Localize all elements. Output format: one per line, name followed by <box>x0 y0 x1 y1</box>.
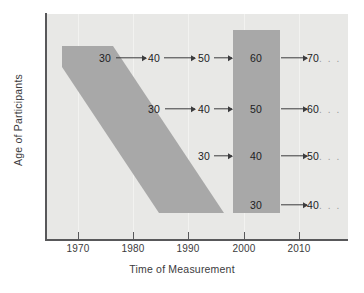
x-tick-label-1980: 1980 <box>121 243 144 254</box>
cell-r2c1: 30 <box>148 103 160 115</box>
cell-r3c3: 50. . . <box>307 150 341 162</box>
arrow-r2-3 <box>281 108 307 109</box>
cell-r1c5-ellipsis: . . . <box>319 53 341 64</box>
y-axis-line <box>45 13 47 240</box>
arrow-r1-1 <box>116 57 146 58</box>
arrow-r4-1 <box>281 204 307 205</box>
x-tick-1970 <box>78 232 79 241</box>
x-tick-1980 <box>133 232 134 241</box>
cell-r2c4: 60. . . <box>307 103 341 115</box>
cell-r3c3-value: 50 <box>307 150 319 162</box>
x-tick-2010 <box>299 232 300 241</box>
cell-r2c4-ellipsis: . . . <box>319 104 341 115</box>
y-axis-title: Age of Participants <box>12 40 24 200</box>
arrow-r1-3 <box>214 57 232 58</box>
x-tick-label-2000: 2000 <box>232 243 255 254</box>
arrow-r2-1 <box>165 108 195 109</box>
x-tick-2000 <box>244 232 245 241</box>
cell-r2c4-value: 60 <box>307 103 319 115</box>
cell-r2c3: 50 <box>250 103 262 115</box>
diagonal-cohort-band <box>62 46 224 213</box>
x-tick-1990 <box>188 232 189 241</box>
cell-r4c2-ellipsis: . . . <box>319 200 341 211</box>
cell-r3c2: 40 <box>250 150 262 162</box>
cell-r4c1: 30 <box>250 199 262 211</box>
cell-r2c2: 40 <box>198 103 210 115</box>
cell-r4c2-value: 40 <box>307 199 319 211</box>
arrow-r1-2 <box>164 57 195 58</box>
cell-r1c4: 60 <box>250 52 262 64</box>
x-tick-label-1970: 1970 <box>66 243 89 254</box>
x-tick-label-2010: 2010 <box>287 243 310 254</box>
x-axis-line <box>45 239 348 241</box>
arrow-r3-1 <box>214 155 232 156</box>
cell-r4c2: 40. . . <box>307 199 341 211</box>
cell-r3c3-ellipsis: . . . <box>319 151 341 162</box>
arrow-r2-2 <box>214 108 232 109</box>
cell-r1c2: 40 <box>148 52 160 64</box>
arrow-r3-2 <box>281 155 307 156</box>
cell-r1c5: 70. . . <box>307 52 341 64</box>
cell-r3c1: 30 <box>198 150 210 162</box>
cohort-sequential-design-figure: 30 40 50 60 70. . . 30 40 50 60. . . 30 … <box>0 0 364 293</box>
x-axis-title: Time of Measurement <box>0 263 364 275</box>
x-tick-label-1990: 1990 <box>176 243 199 254</box>
cell-r1c5-value: 70 <box>307 52 319 64</box>
cell-r1c1: 30 <box>99 52 111 64</box>
arrow-r1-4 <box>281 57 307 58</box>
cell-r1c3: 50 <box>198 52 210 64</box>
